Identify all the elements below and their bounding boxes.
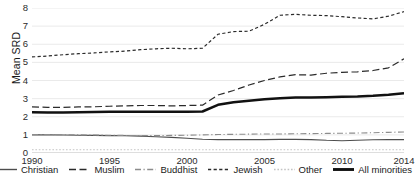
plot-area: [32, 8, 404, 153]
legend-item-other[interactable]: Other: [274, 165, 323, 175]
legend-label: Other: [299, 165, 323, 175]
y-tick-label: 6: [14, 39, 28, 48]
series-line-christian: [32, 135, 404, 141]
chart-legend: ChristianMuslimBuddhistJewishOtherAll mi…: [0, 163, 408, 176]
legend-swatch-jewish-icon: [208, 165, 229, 174]
legend-swatch-all-minorities-icon: [333, 165, 354, 174]
legend-label: All minorities: [358, 165, 412, 175]
legend-swatch-buddhist-icon: [135, 165, 156, 174]
legend-swatch-muslim-icon: [69, 165, 90, 174]
legend-label: Christian: [21, 165, 59, 175]
legend-label: Buddhist: [160, 165, 197, 175]
series-canvas: [32, 8, 404, 153]
y-tick-label: 5: [14, 57, 28, 66]
legend-swatch-other-icon: [274, 165, 295, 174]
y-tick-label: 2: [14, 112, 28, 121]
y-tick-label: 3: [14, 94, 28, 103]
y-tick-label: 1: [14, 130, 28, 139]
series-line-all-minorities: [32, 93, 404, 112]
series-line-jewish: [32, 12, 404, 57]
series-line-muslim: [32, 59, 404, 108]
y-tick-label: 7: [14, 21, 28, 30]
legend-item-all-minorities[interactable]: All minorities: [333, 165, 412, 175]
legend-item-muslim[interactable]: Muslim: [69, 165, 124, 175]
legend-swatch-christian-icon: [0, 165, 17, 174]
y-tick-label: 8: [14, 3, 28, 12]
legend-label: Jewish: [233, 165, 262, 175]
legend-item-jewish[interactable]: Jewish: [208, 165, 262, 175]
legend-item-christian[interactable]: Christian: [0, 165, 58, 175]
y-axis-tick-labels: 012345678: [12, 8, 28, 153]
legend-item-buddhist[interactable]: Buddhist: [135, 165, 197, 175]
legend-label: Muslim: [94, 165, 124, 175]
y-tick-label: 4: [14, 76, 28, 85]
